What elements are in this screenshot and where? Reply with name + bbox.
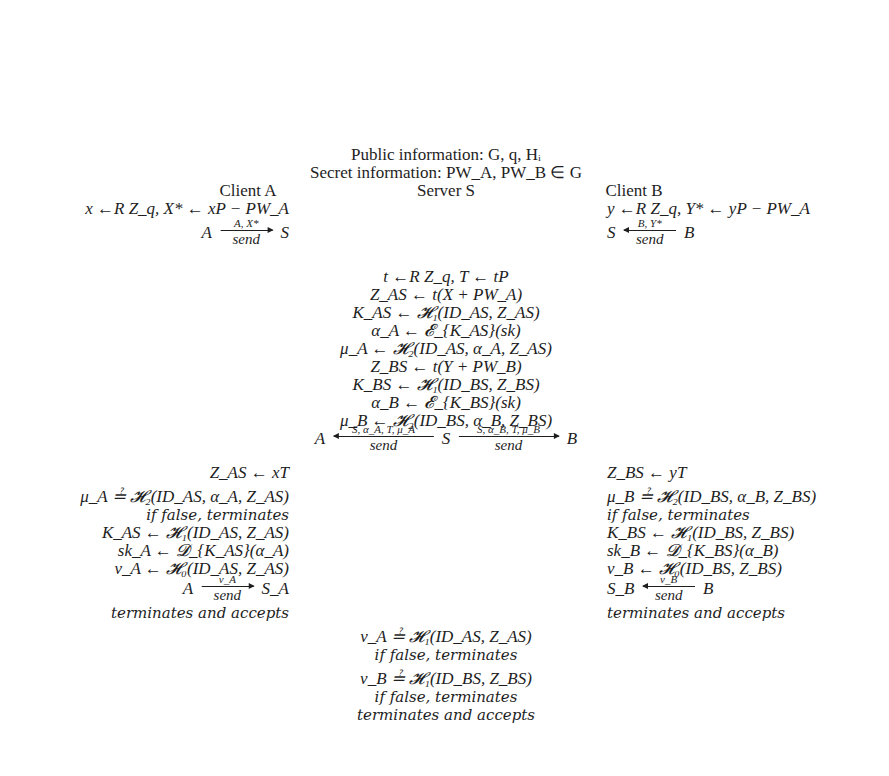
receiver-label: S [281, 223, 290, 242]
server-step: Z_AS ← t(X + PW_A) [370, 286, 522, 304]
left-arrow-icon: ν_B send [643, 574, 695, 603]
client-b-final-step: if false, terminates [607, 506, 750, 524]
client-a-final-step: μ_A ≟ 𝓗₂(ID_AS, α_A, Z_AS) [80, 488, 289, 506]
sender-label: A [183, 579, 193, 598]
client-b-accepts: terminates and accepts [607, 604, 785, 622]
client-a-final-step: if false, terminates [146, 506, 289, 524]
client-a-final-step: Z_AS ← xT [210, 464, 289, 482]
server-step: K_AS ← 𝓗₁(ID_AS, Z_AS) [352, 304, 539, 322]
server-label: S [442, 429, 451, 448]
server-step: t ←R Z_q, T ← tP [383, 268, 508, 286]
server-step: μ_A ← 𝓗₂(ID_AS, α_A, Z_AS) [340, 340, 552, 358]
receiver-label: S [607, 223, 616, 242]
sender-label: B [703, 579, 713, 598]
client-a-final-message: A ν_A send S_A [183, 574, 289, 603]
client-b-final-step: sk_B ← 𝓓_{K_BS}(α_B) [607, 542, 779, 560]
left-arrow-icon: S, α_A, T, μ_A send [334, 424, 434, 453]
client-a-accepts: terminates and accepts [111, 604, 289, 622]
client-a-final-step: sk_A ← 𝓓_{K_AS}(α_A) [118, 542, 289, 560]
server-final-step: ν_A ≟ 𝓗₁(ID_AS, Z_AS) [360, 628, 532, 646]
client-a-send-message: A A, X* send S [202, 218, 289, 247]
client-b-final-step: K_BS ← 𝓗₁(ID_BS, Z_BS) [607, 524, 794, 542]
receiver-label: S_A [262, 579, 289, 598]
right-arrow-icon: A, X* send [220, 218, 272, 247]
party-client-b: Client B [605, 182, 662, 200]
client-a-final-step: K_AS ← 𝓗₁(ID_AS, Z_AS) [102, 524, 289, 542]
client-b-send-message: S B, Y* send B [607, 218, 694, 247]
secret-information: Secret information: PW_A, PW_B ∈ G [310, 164, 582, 182]
client-b-final-message: S_B ν_B send B [607, 574, 713, 603]
left-arrow-icon: B, Y* send [624, 218, 676, 247]
server-step: α_B ← 𝓔_{K_BS}(sk) [371, 394, 521, 412]
server-send-messages: A S, α_A, T, μ_A send S S, α_B, T, μ_B s… [315, 424, 577, 453]
sender-label: B [684, 223, 694, 242]
client-b-final-step: μ_B ≟ 𝓗₂(ID_BS, α_B, Z_BS) [607, 488, 816, 506]
server-step: K_BS ← 𝓗₁(ID_BS, Z_BS) [352, 376, 539, 394]
server-final-step: ν_B ≟ 𝓗₁(ID_BS, Z_BS) [360, 670, 532, 688]
party-b-label: B [567, 429, 577, 448]
right-arrow-icon: ν_A send [201, 574, 253, 603]
public-information: Public information: G, q, Hᵢ [351, 146, 541, 164]
client-b-choose-y: y ←R Z_q, Y* ← yP − PW_A [607, 200, 810, 218]
client-a-choose-x: x ←R Z_q, X* ← xP − PW_A [85, 200, 289, 218]
party-client-a: Client A [219, 182, 276, 200]
client-b-final-step: Z_BS ← yT [607, 464, 686, 482]
right-arrow-icon: S, α_B, T, μ_B send [459, 424, 559, 453]
server-step: α_A ← 𝓔_{K_AS}(sk) [371, 322, 520, 340]
party-a-label: A [315, 429, 325, 448]
server-accepts: terminates and accepts [357, 706, 535, 724]
server-final-step: if false, terminates [375, 646, 518, 664]
party-server: Server S [417, 182, 475, 200]
server-final-step: if false, terminates [375, 688, 518, 706]
server-step: Z_BS ← t(Y + PW_B) [370, 358, 521, 376]
receiver-label: S_B [607, 579, 634, 598]
sender-label: A [202, 223, 212, 242]
